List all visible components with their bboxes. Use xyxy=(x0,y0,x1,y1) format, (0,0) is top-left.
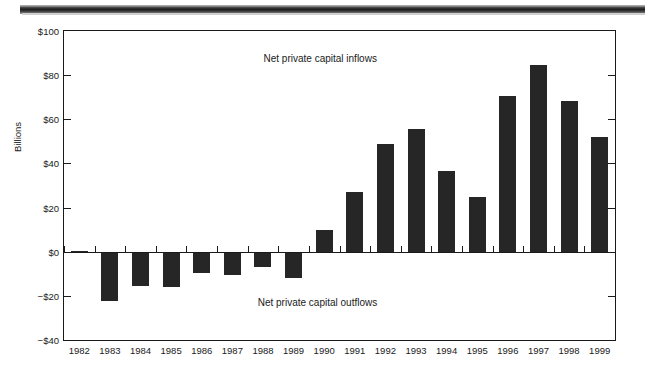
bar xyxy=(224,252,241,275)
y-axis-tick xyxy=(64,75,71,76)
x-axis-tick-label: 1998 xyxy=(559,345,580,356)
x-axis-tick-label: 1986 xyxy=(191,345,212,356)
bar xyxy=(285,252,302,278)
chart-plot-frame: −$40−$20$0$20$40$60$80$100 Net private c… xyxy=(63,30,616,341)
bar xyxy=(163,252,180,287)
x-axis-tick-label: 1992 xyxy=(375,345,396,356)
y-axis-tick-right xyxy=(608,296,615,297)
y-axis-tick-label: $0 xyxy=(48,246,59,257)
bar xyxy=(316,230,333,252)
y-axis-title: Billions xyxy=(12,122,23,152)
x-axis-tick-label: 1990 xyxy=(314,345,335,356)
x-axis-tick-label: 1988 xyxy=(252,345,273,356)
x-axis-tick-label: 1982 xyxy=(69,345,90,356)
bar xyxy=(530,65,547,252)
x-axis-tick-label: 1995 xyxy=(467,345,488,356)
y-axis-tick-label: $40 xyxy=(43,158,59,169)
x-axis-tick-label: 1994 xyxy=(436,345,457,356)
x-axis-tick-label: 1996 xyxy=(497,345,518,356)
y-axis-tick-label: −$20 xyxy=(38,290,59,301)
bar xyxy=(254,252,271,267)
x-axis-tick-label: 1983 xyxy=(99,345,120,356)
bar xyxy=(193,252,210,273)
x-axis-tick-label: 1989 xyxy=(283,345,304,356)
x-axis-tick-label: 1993 xyxy=(405,345,426,356)
y-axis-tick-label: $100 xyxy=(38,26,59,37)
y-axis-tick xyxy=(64,296,71,297)
bar xyxy=(591,137,608,252)
bar xyxy=(408,129,425,251)
y-axis-tick-label: $20 xyxy=(43,202,59,213)
y-axis-tick-label: $80 xyxy=(43,70,59,81)
y-axis-tick-right xyxy=(608,208,615,209)
x-axis-tick-label: 1984 xyxy=(130,345,151,356)
chart-annotation-label: Net private capital outflows xyxy=(258,297,378,308)
bar xyxy=(469,197,486,252)
y-axis-tick-right xyxy=(608,163,615,164)
top-divider-shadow xyxy=(22,13,645,15)
bar xyxy=(438,171,455,252)
bar xyxy=(101,252,118,302)
y-axis-tick xyxy=(64,208,71,209)
x-axis-tick-label: 1999 xyxy=(589,345,610,356)
bar xyxy=(499,96,516,252)
y-axis-tick-right xyxy=(608,75,615,76)
x-axis-tick-label: 1991 xyxy=(344,345,365,356)
y-axis-tick-right xyxy=(608,119,615,120)
bar xyxy=(132,252,149,286)
x-axis-tick-label: 1997 xyxy=(528,345,549,356)
zero-baseline xyxy=(64,252,615,253)
bar xyxy=(561,101,578,252)
bar xyxy=(377,144,394,252)
chart-annotation-label: Net private capital inflows xyxy=(264,53,377,64)
y-axis-tick-label: $60 xyxy=(43,114,59,125)
x-axis-tick-label: 1987 xyxy=(222,345,243,356)
chart-plot-area: −$40−$20$0$20$40$60$80$100 Net private c… xyxy=(64,31,615,340)
x-axis-tick-label: 1985 xyxy=(161,345,182,356)
y-axis-tick xyxy=(64,119,71,120)
chart-page: Billions −$40−$20$0$20$40$60$80$100 Net … xyxy=(0,0,645,378)
y-axis-tick xyxy=(64,163,71,164)
y-axis-tick-label: −$40 xyxy=(38,335,59,346)
bar xyxy=(346,192,363,252)
